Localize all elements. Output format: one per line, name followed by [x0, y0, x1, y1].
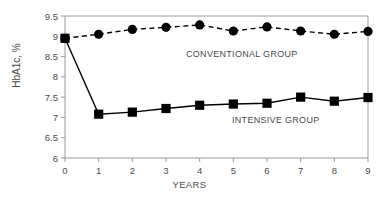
data-point-marker [330, 30, 339, 39]
y-tick-label: 9 [53, 31, 58, 42]
data-point-marker [94, 30, 103, 39]
y-tick-label: 8 [53, 71, 58, 82]
data-point-marker [161, 23, 170, 32]
y-tick-label: 6 [53, 153, 58, 164]
x-tick-label: 6 [264, 165, 269, 176]
series-layer [60, 20, 372, 118]
series-label-intensive: INTENSIVE GROUP [232, 115, 320, 125]
x-tick-label: 9 [365, 165, 370, 176]
y-tick-label: 7 [53, 112, 58, 123]
data-point-marker [262, 22, 271, 31]
data-point-marker [296, 26, 305, 35]
series-intensive [60, 34, 372, 119]
x-axis-ticks: 0123456789 [62, 158, 370, 176]
series-label-conventional: CONVENTIONAL GROUP [186, 49, 298, 59]
series-conventional [60, 20, 372, 43]
data-point-marker [60, 34, 69, 43]
x-tick-label: 4 [197, 165, 202, 176]
x-tick-label: 5 [231, 165, 236, 176]
axis-frame [65, 16, 368, 158]
chart-plot: 66.577.588.599.5 0123456789 [0, 0, 379, 198]
x-tick-label: 0 [62, 165, 67, 176]
x-tick-label: 3 [163, 165, 168, 176]
data-point-marker [128, 25, 137, 34]
data-point-marker [330, 97, 339, 106]
y-tick-label: 6.5 [45, 132, 58, 143]
data-point-marker [363, 93, 372, 102]
data-point-marker [229, 99, 238, 108]
data-point-marker [363, 27, 372, 36]
data-point-marker [296, 93, 305, 102]
data-point-marker [195, 20, 204, 29]
x-tick-label: 8 [332, 165, 337, 176]
y-tick-label: 9.5 [45, 11, 58, 22]
x-tick-label: 7 [298, 165, 303, 176]
y-tick-label: 7.5 [45, 92, 58, 103]
x-tick-label: 1 [96, 165, 101, 176]
data-point-marker [128, 108, 137, 117]
data-point-marker [94, 110, 103, 119]
x-tick-label: 2 [130, 165, 135, 176]
data-point-marker [161, 104, 170, 113]
y-tick-label: 8.5 [45, 51, 58, 62]
x-axis-title: YEARS [0, 179, 379, 190]
y-axis-ticks: 66.577.588.599.5 [45, 11, 65, 164]
data-point-marker [262, 99, 271, 108]
data-point-marker [195, 101, 204, 110]
chart-container: HbA1c, % 66.577.588.599.5 0123456789 CON… [0, 0, 379, 198]
data-point-marker [229, 26, 238, 35]
